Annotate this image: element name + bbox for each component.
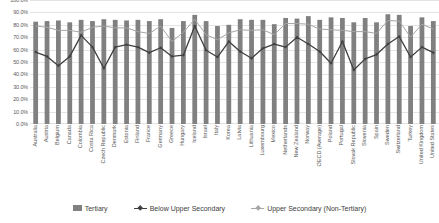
x-axis-tick-label: Iceland xyxy=(192,125,198,143)
x-axis-tick: Korea xyxy=(223,124,234,196)
x-axis-tick: Finland xyxy=(132,124,143,196)
x-axis-tick-label: Spain xyxy=(374,125,380,139)
bar xyxy=(226,25,231,124)
bar xyxy=(181,21,186,124)
bar xyxy=(67,22,72,124)
x-axis-tick-label: New Zealand xyxy=(294,125,300,157)
x-axis-tick: Portugal xyxy=(337,124,348,196)
x-axis-tick-label: Hungary xyxy=(181,125,187,146)
x-axis-tick: Slovenia xyxy=(359,124,370,196)
bar xyxy=(56,20,61,124)
y-axis-tick: 0.0% xyxy=(16,121,28,127)
x-axis-tick-label: Turkey xyxy=(408,125,414,142)
employment-rate-by-education-chart: 100.0%90.0%80.0%70.0%60.0%50.0%40.0%30.0… xyxy=(0,0,439,223)
line-series-upper-secondary xyxy=(36,19,434,41)
chart-legend: Tertiary Below Upper Secondary Upper Sec… xyxy=(0,199,439,217)
bar xyxy=(90,21,95,124)
x-axis-tick: Colombia xyxy=(75,124,86,196)
x-axis-tick: Luxembourg xyxy=(257,124,268,196)
plot-canvas xyxy=(30,0,439,124)
x-axis-tick-label: Germany xyxy=(158,125,164,148)
y-axis-tick: 90.0% xyxy=(13,9,28,15)
line-swatch-icon xyxy=(251,205,264,212)
line-diamond-swatch-icon xyxy=(134,205,147,212)
x-axis-tick-label: Costa Rica xyxy=(90,125,96,152)
x-axis-tick-label: Korea xyxy=(226,125,232,140)
x-axis-tick: New Zealand xyxy=(291,124,302,196)
bar xyxy=(215,26,220,124)
series-line xyxy=(36,19,434,41)
bar xyxy=(420,17,425,124)
x-axis-tick-label: Sweden xyxy=(385,125,391,145)
x-axis-tick-label: Czech Republic xyxy=(101,125,107,164)
x-axis-tick: Sweden xyxy=(382,124,393,196)
bar xyxy=(147,21,152,124)
x-axis-tick-label: Austria xyxy=(44,125,50,142)
x-axis-tick-label: Estonia xyxy=(124,125,130,143)
bar xyxy=(317,20,322,124)
x-axis-tick: France xyxy=(144,124,155,196)
legend-label-tertiary: Tertiary xyxy=(85,205,108,212)
legend-item-upper-secondary[interactable]: Upper Secondary (Non-Tertiary) xyxy=(251,205,366,212)
x-axis-tick-label: Slovenia xyxy=(362,125,368,146)
plot-area: 100.0%90.0%80.0%70.0%60.0%50.0%40.0%30.0… xyxy=(0,0,439,124)
x-axis-tick-label: United States xyxy=(431,125,437,158)
bar xyxy=(306,16,311,124)
x-axis-tick: Australia xyxy=(30,124,41,196)
legend-label-upper-secondary: Upper Secondary (Non-Tertiary) xyxy=(267,205,366,212)
bar xyxy=(158,19,163,124)
x-axis-tick-label: Canada xyxy=(67,125,73,144)
x-axis-tick: Lithuania xyxy=(246,124,257,196)
x-axis-tick-label: Finland xyxy=(135,125,141,143)
bar xyxy=(408,26,413,124)
y-axis-tick: 20.0% xyxy=(13,96,28,102)
bar xyxy=(374,22,379,124)
bar xyxy=(283,18,288,124)
x-axis-tick: Switzerland xyxy=(394,124,405,196)
x-axis-tick-label: Colombia xyxy=(78,125,84,148)
bar xyxy=(397,15,402,124)
bar xyxy=(33,22,38,124)
bar xyxy=(329,17,334,124)
bar xyxy=(351,22,356,124)
bar xyxy=(113,20,118,124)
x-axis-tick: Norway xyxy=(303,124,314,196)
y-axis: 100.0%90.0%80.0%70.0%60.0%50.0%40.0%30.0… xyxy=(0,0,30,124)
x-axis-tick: Mexico xyxy=(269,124,280,196)
y-axis-tick: 100.0% xyxy=(10,0,28,3)
x-axis-labels: AustraliaAustriaBelgiumCanadaColombiaCos… xyxy=(30,124,439,196)
bar-series-tertiary xyxy=(33,14,435,124)
bar xyxy=(45,21,50,124)
x-axis-tick: Poland xyxy=(325,124,336,196)
x-axis-tick: Netherlands xyxy=(280,124,291,196)
legend-label-below-upper-secondary: Below Upper Secondary xyxy=(150,205,226,212)
x-axis-tick-label: Israel xyxy=(203,125,209,138)
x-axis-tick: Slovak Republic xyxy=(348,124,359,196)
series-layer xyxy=(30,0,439,124)
x-axis-tick: Latvia xyxy=(235,124,246,196)
legend-item-below-upper-secondary[interactable]: Below Upper Secondary xyxy=(134,205,226,212)
bar xyxy=(295,19,300,124)
bar xyxy=(204,21,209,124)
bar xyxy=(238,19,243,124)
bar xyxy=(249,20,254,124)
y-axis-tick: 60.0% xyxy=(13,47,28,53)
y-axis-tick: 80.0% xyxy=(13,22,28,28)
x-axis-tick-label: Mexico xyxy=(272,125,278,142)
x-axis-tick: Costa Rica xyxy=(87,124,98,196)
x-axis-tick-label: Greece xyxy=(169,125,175,143)
x-axis-tick-label: Slovak Republic xyxy=(351,125,357,164)
y-axis-tick: 30.0% xyxy=(13,84,28,90)
legend-item-tertiary[interactable]: Tertiary xyxy=(73,205,108,212)
y-axis-tick: 10.0% xyxy=(13,109,28,115)
x-axis-tick: Germany xyxy=(155,124,166,196)
x-axis-tick-label: Switzerland xyxy=(396,125,402,153)
x-axis-tick-label: Netherlands xyxy=(283,125,289,155)
bar xyxy=(272,24,277,124)
bar xyxy=(101,19,106,124)
x-axis-tick: Greece xyxy=(166,124,177,196)
bar xyxy=(124,20,129,124)
x-axis-tick: Israel xyxy=(200,124,211,196)
x-axis-tick: United States xyxy=(428,124,439,196)
x-axis-tick: Italy xyxy=(212,124,223,196)
